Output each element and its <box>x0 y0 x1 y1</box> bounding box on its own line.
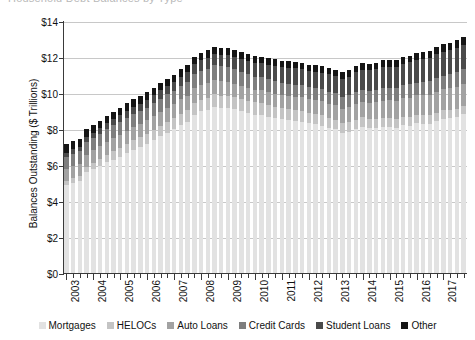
bar-segment <box>387 88 391 100</box>
bar-segment <box>434 78 438 92</box>
bar-column <box>448 43 452 274</box>
bar-segment <box>253 63 257 77</box>
x-tick-mark <box>181 274 182 278</box>
bar-segment <box>179 125 183 274</box>
bar-segment <box>239 72 243 86</box>
bar-segment <box>105 129 109 142</box>
bar-segment <box>145 134 149 144</box>
bar-segment <box>428 124 432 274</box>
bar-segment <box>253 102 257 114</box>
bar-segment <box>367 103 371 119</box>
bar-segment <box>434 92 438 113</box>
legend-item[interactable]: Auto Loans <box>167 320 228 331</box>
bar-segment <box>131 114 135 127</box>
bar-segment <box>158 126 162 137</box>
bar-segment <box>212 80 216 95</box>
bar-segment <box>327 74 331 91</box>
bar-segment <box>185 65 189 72</box>
bar-segment <box>300 97 304 111</box>
x-tick-mark <box>410 274 411 278</box>
bar-column <box>327 68 331 274</box>
bar-segment <box>387 100 391 117</box>
bar-segment <box>239 59 243 72</box>
bar-segment <box>280 83 284 95</box>
legend-item[interactable]: Mortgages <box>39 320 96 331</box>
chart-legend: MortgagesHELOCsAuto LoansCredit CardsStu… <box>0 320 475 331</box>
x-tick-mark <box>316 274 317 278</box>
bar-segment <box>401 85 405 98</box>
bar-segment <box>239 86 243 100</box>
bar-segment <box>307 71 311 87</box>
x-tick-mark <box>127 274 128 278</box>
bar-segment <box>280 95 284 108</box>
bar-segment <box>64 157 68 169</box>
bar-segment <box>313 114 317 124</box>
x-tick-mark <box>154 274 155 278</box>
bar-column <box>259 57 263 274</box>
x-tick-mark <box>241 274 242 278</box>
bar-segment <box>179 114 183 125</box>
bar-segment <box>152 116 156 130</box>
bar-segment <box>428 95 432 116</box>
bar-segment <box>246 74 250 88</box>
bar-column <box>199 53 203 274</box>
x-tick-mark <box>114 274 115 278</box>
bar-segment <box>374 128 378 274</box>
legend-item[interactable]: Other <box>401 320 436 331</box>
bar-segment <box>206 50 210 57</box>
x-tick-mark <box>295 274 296 278</box>
bar-segment <box>266 79 270 92</box>
bar-segment <box>98 166 102 274</box>
bar-segment <box>455 48 459 72</box>
bar-segment <box>448 118 452 274</box>
x-tick-mark <box>342 274 343 278</box>
bar-segment <box>273 81 277 94</box>
bar-segment <box>98 159 102 166</box>
bar-segment <box>78 164 82 176</box>
x-tick-mark <box>423 274 424 278</box>
bar-segment <box>145 100 149 108</box>
bar-column <box>226 48 230 274</box>
legend-item[interactable]: Student Loans <box>316 320 391 331</box>
bar-segment <box>185 110 189 122</box>
bar-segment <box>64 185 68 274</box>
bar-segment <box>266 105 270 117</box>
bar-segment <box>320 115 324 125</box>
bar-segment <box>199 100 203 112</box>
bar-segment <box>347 122 351 132</box>
bar-segment <box>71 183 75 274</box>
bar-segment <box>179 86 183 100</box>
x-tick-mark <box>134 274 135 278</box>
bar-segment <box>226 108 230 274</box>
legend-swatch-icon <box>167 322 174 329</box>
bar-column <box>71 141 75 274</box>
bar-segment <box>192 74 196 88</box>
bar-segment <box>78 139 82 147</box>
bar-segment <box>158 99 162 112</box>
bar-segment <box>226 96 230 108</box>
bar-segment <box>239 99 243 111</box>
bar-segment <box>280 119 284 274</box>
legend-item[interactable]: HELOCs <box>107 320 156 331</box>
legend-item[interactable]: Credit Cards <box>239 320 305 331</box>
bar-segment <box>428 81 432 95</box>
bar-segment <box>192 103 196 115</box>
bar-segment <box>91 150 95 163</box>
bar-segment <box>333 120 337 130</box>
bar-segment <box>165 94 169 107</box>
bar-column <box>111 111 115 274</box>
bar-column <box>313 65 317 274</box>
bar-segment <box>179 69 183 76</box>
bar-segment <box>441 44 445 51</box>
bar-segment <box>138 147 142 274</box>
bar-segment <box>333 93 337 105</box>
x-tick-mark <box>376 274 377 278</box>
bar-segment <box>455 117 459 274</box>
bar-segment <box>212 65 216 80</box>
bar-segment <box>367 70 371 90</box>
bar-column <box>179 69 183 274</box>
bar-segment <box>158 90 162 98</box>
legend-swatch-icon <box>316 322 323 329</box>
bar-segment <box>333 105 337 119</box>
bar-segment <box>461 45 465 70</box>
